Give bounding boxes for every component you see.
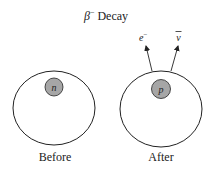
proton-label: p [158, 84, 164, 95]
after-nucleus: p [120, 71, 202, 147]
title-superscript: − [90, 8, 95, 17]
after-label: After [148, 150, 173, 164]
before-label: Before [39, 150, 72, 164]
electron-label: e− [139, 31, 147, 43]
electron-arrow [146, 46, 152, 71]
title-text: Decay [97, 9, 128, 23]
beta-decay-diagram: β−Decay n Before p After e− ν [0, 0, 212, 176]
electron-superscript: − [143, 31, 147, 39]
beta-symbol: β [83, 9, 90, 23]
diagram-title: β−Decay [83, 8, 128, 23]
before-nucleus: n [13, 71, 95, 145]
antineutrino-arrow [171, 46, 178, 71]
neutron-label: n [52, 82, 57, 93]
antineutrino-label: ν [176, 32, 182, 44]
antineutrino-symbol: ν [176, 32, 181, 43]
